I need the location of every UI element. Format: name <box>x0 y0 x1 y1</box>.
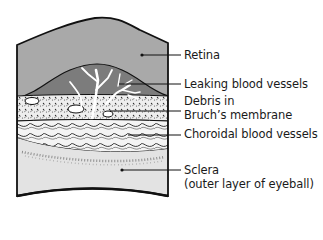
label-retina: Retina <box>184 49 220 62</box>
label-sclera-line1: Sclera <box>184 164 219 177</box>
label-choroidal-blood-vessels: Choroidal blood vessels <box>184 128 318 141</box>
label-sclera-line2: (outer layer of eyeball) <box>184 178 314 191</box>
label-leaking-blood-vessels: Leaking blood vessels <box>184 78 308 91</box>
label-debris-line2: Bruch’s membrane <box>184 109 292 122</box>
label-debris-line1: Debris in <box>184 95 234 108</box>
